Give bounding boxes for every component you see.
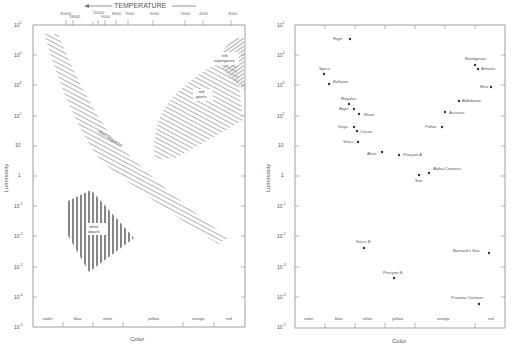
temperature-axis-label: TEMPERATURE: [114, 2, 166, 9]
y-tick: 103: [277, 81, 285, 88]
color-band-label: orange: [192, 316, 204, 321]
svg-text:Antares: Antares: [481, 66, 495, 71]
right-chart: Rigel Spica Bellatrix Regulus Algol Miza…: [295, 25, 505, 328]
svg-text:Proxima Centauri: Proxima Centauri: [451, 295, 483, 300]
y-tick: 105: [277, 21, 285, 28]
svg-text:Procyon B: Procyon B: [383, 270, 403, 275]
y-tick: 10-5: [277, 323, 286, 330]
white-dwarfs-label: white dwarfs: [88, 224, 100, 234]
color-band-label: red: [226, 316, 232, 321]
svg-text:Mizar: Mizar: [364, 112, 375, 117]
color-band-label: white: [103, 316, 112, 321]
y-tick: 10-3: [277, 263, 286, 270]
svg-text:Bellatrix: Bellatrix: [333, 79, 349, 84]
arrow-left-icon: [84, 4, 89, 8]
svg-text:Sirius B: Sirius B: [356, 239, 371, 244]
svg-text:Aldebaran: Aldebaran: [462, 98, 482, 103]
svg-text:18000: 18000: [69, 14, 81, 19]
y-tick: 102: [14, 112, 22, 119]
color-band-label: white: [363, 316, 372, 321]
svg-text:Pollox: Pollox: [425, 124, 437, 129]
color-band-label: blue: [74, 316, 82, 321]
y-tick: 10-5: [14, 323, 23, 330]
y-tick: 10-4: [277, 293, 286, 300]
svg-text:Algol: Algol: [339, 106, 348, 111]
left-y-axis-label: Luminosity: [3, 164, 9, 193]
color-band-label: violet: [304, 316, 313, 321]
svg-text:Altair: Altair: [367, 151, 377, 156]
color-band-label: yellow: [392, 316, 403, 321]
svg-text:Spica: Spica: [319, 66, 330, 71]
y-tick: 104: [14, 51, 22, 58]
y-tick: 102: [277, 112, 285, 119]
red-giants-label-line2: giants: [196, 94, 207, 99]
svg-text:Arcturus: Arcturus: [449, 110, 465, 115]
y-tick: 10-1: [14, 202, 23, 209]
svg-text:Alpha Centauri: Alpha Centauri: [433, 166, 461, 171]
y-tick: 103: [14, 81, 22, 88]
red-supergiants-label-line2: supergiants: [214, 58, 235, 63]
svg-text:Betelgeuse: Betelgeuse: [465, 56, 487, 61]
color-band-label: red: [488, 316, 494, 321]
white-dwarfs-label-line2: dwarfs: [88, 229, 100, 234]
svg-text:6000: 6000: [150, 11, 160, 16]
svg-text:7000: 7000: [125, 11, 135, 16]
star-points: [323, 38, 492, 305]
right-y-axis-label: Luminosity: [265, 164, 271, 193]
y-tick: 10-2: [277, 232, 286, 239]
y-tick: 1: [281, 172, 284, 178]
y-tick: 10-1: [277, 202, 286, 209]
svg-text:3000: 3000: [228, 11, 238, 16]
svg-text:Mira: Mira: [480, 84, 489, 89]
y-tick: 10: [278, 142, 284, 148]
y-tick: 105: [14, 21, 22, 28]
y-tick: 10-3: [14, 263, 23, 270]
svg-text:Barnard's Star: Barnard's Star: [453, 248, 480, 253]
color-band-label: blue: [335, 316, 343, 321]
svg-text:Sirius: Sirius: [343, 139, 353, 144]
y-tick: 10-2: [14, 232, 23, 239]
color-band-label: orange: [437, 316, 449, 321]
svg-text:Procyon A: Procyon A: [403, 152, 422, 157]
left-x-axis-label: Color: [130, 336, 144, 342]
y-tick: 10: [15, 142, 21, 148]
red-supergiants-label: red supergiants: [214, 53, 235, 63]
svg-text:Rigel: Rigel: [333, 36, 343, 41]
y-tick: 10-4: [14, 293, 23, 300]
star-labels: Rigel Spica Bellatrix Regulus Algol Miza…: [319, 36, 495, 300]
color-band-label: yellow: [148, 316, 159, 321]
svg-text:9000: 9000: [101, 14, 111, 19]
svg-text:8000: 8000: [112, 11, 122, 16]
svg-text:5000: 5000: [181, 11, 191, 16]
y-tick: 1: [18, 172, 21, 178]
y-tick: 104: [277, 51, 285, 58]
svg-text:Sun: Sun: [415, 178, 423, 183]
color-band-label: violet: [43, 316, 52, 321]
right-x-axis-label: Color: [392, 338, 406, 344]
svg-text:4000: 4000: [199, 11, 209, 16]
svg-text:Vega: Vega: [338, 124, 348, 129]
svg-text:Regulus: Regulus: [341, 96, 356, 101]
hr-diagram-canvas: 3000018000 100009000 80007000 60005000 4…: [0, 0, 511, 349]
svg-text:Castor: Castor: [360, 129, 373, 134]
red-giants-label: red giants: [196, 89, 207, 99]
